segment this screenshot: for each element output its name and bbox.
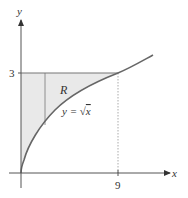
x-tick-label: 9 — [115, 179, 121, 191]
x-axis-label: x — [171, 167, 177, 179]
curve-label: y = √x — [61, 105, 91, 117]
region-label: R — [59, 83, 68, 97]
y-axis-label: y — [16, 5, 22, 17]
region-r-fill — [21, 73, 118, 173]
y-tick-label: 3 — [9, 67, 15, 79]
curve-label-lhs: y = — [61, 105, 80, 117]
curve-label-arg: x — [85, 105, 91, 117]
diagram-canvas: y x 3 9 R y = √x — [0, 0, 188, 198]
